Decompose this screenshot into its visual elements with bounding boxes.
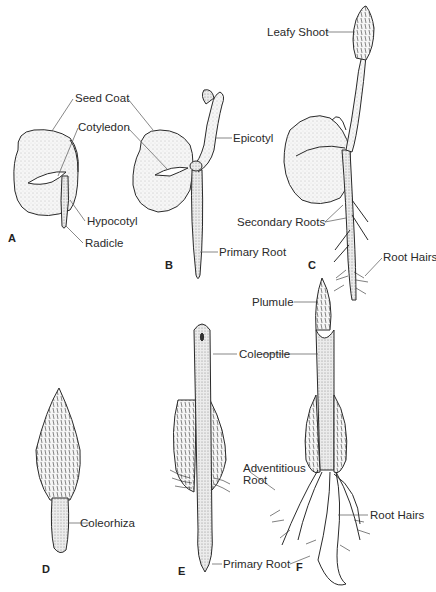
label-epicotyl: Epicotyl [233,132,273,144]
label-primary-root-b: Primary Root [219,246,286,258]
label-secondary-roots: Secondary Roots [237,216,325,228]
label-seed-coat: Seed Coat [75,92,129,104]
panel-letter-e: E [178,565,185,577]
seedling-f-drawing [270,278,370,585]
label-coleoptile: Coleoptile [239,348,290,360]
label-cotyledon: Cotyledon [78,121,130,133]
seed-a-drawing [14,130,79,228]
seedling-c-drawing [284,6,374,300]
label-leafy-shoot: Leafy Shoot [267,26,328,38]
label-adventitious-root: Root [243,474,267,486]
label-adventitious: Adventitious [243,462,306,474]
panel-letter-b: B [165,259,173,271]
label-root-hairs-c: Root Hairs [383,251,436,263]
label-root-hairs-f: Root Hairs [370,509,424,521]
drawing-layer [0,0,436,592]
seedling-e-drawing [170,324,230,572]
seedling-b-drawing [133,90,224,279]
panel-letter-a: A [8,232,16,244]
label-radicle: Radicle [85,237,123,249]
panel-letter-c: C [308,259,316,271]
grain-d-drawing [36,388,80,553]
label-primary-root-ef: Primary Root [223,558,290,570]
label-plumule: Plumule [252,296,294,308]
panel-letter-d: D [42,563,50,575]
panel-letter-f: F [296,561,303,573]
label-coleorhiza: Coleorhiza [80,517,135,529]
germination-diagram: Seed Coat Cotyledon Hypocotyl Radicle Ep… [0,0,436,592]
label-hypocotyl: Hypocotyl [87,215,138,227]
